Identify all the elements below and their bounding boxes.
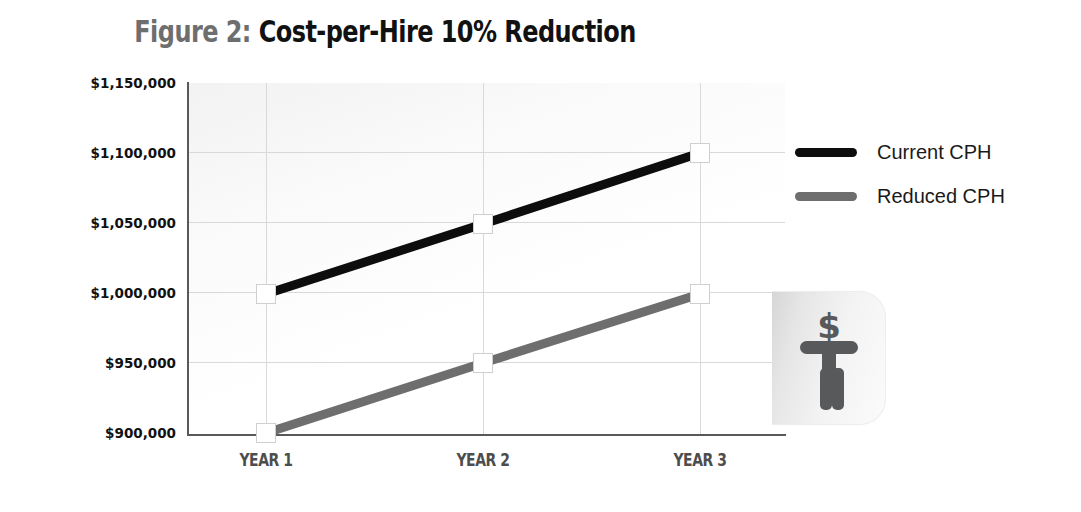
y-tick-label: $1,150,000: [91, 75, 176, 91]
legend-item-current-cph[interactable]: Current CPH: [795, 130, 1065, 174]
y-tick-label: $1,000,000: [91, 285, 176, 301]
title-main-text: Cost-per-Hire 10% Reduction: [259, 14, 636, 49]
line-swatch-gray-icon: [795, 192, 857, 201]
dollar-person-icon-panel: $: [772, 291, 886, 425]
dollar-person-icon: $: [798, 308, 860, 410]
chart-screenshot: Figure 2: Cost-per-Hire 10% Reduction $1…: [0, 0, 1081, 512]
y-tick-label: $900,000: [105, 425, 176, 441]
legend-item-reduced-cph[interactable]: Reduced CPH: [795, 174, 1065, 218]
y-tick-label: $1,100,000: [91, 145, 176, 161]
x-tick-label-year-2: YEAR 2: [456, 450, 509, 470]
x-tick-label-year-3: YEAR 3: [673, 450, 726, 470]
line-swatch-black-icon: [795, 148, 857, 157]
data-point-marker[interactable]: [690, 284, 710, 304]
data-point-marker[interactable]: [256, 423, 276, 443]
data-point-marker[interactable]: [473, 353, 493, 373]
y-axis-line: [187, 82, 189, 436]
x-tick-label-year-1: YEAR 1: [239, 450, 292, 470]
data-point-marker[interactable]: [690, 143, 710, 163]
data-point-marker[interactable]: [256, 284, 276, 304]
gridline-vertical: [483, 83, 484, 435]
legend: Current CPH Reduced CPH: [795, 130, 1065, 218]
gridline-vertical: [266, 83, 267, 435]
y-tick-label: $950,000: [105, 355, 176, 371]
gridline-vertical: [700, 83, 701, 435]
svg-text:$: $: [817, 308, 841, 346]
x-axis-line: [188, 434, 786, 436]
y-tick-label: $1,050,000: [91, 215, 176, 231]
data-point-marker[interactable]: [473, 214, 493, 234]
y-axis-labels: $1,150,000 $1,100,000 $1,050,000 $1,000,…: [0, 0, 176, 512]
plot-area: [188, 83, 785, 435]
legend-item-label: Reduced CPH: [877, 185, 1005, 208]
legend-item-label: Current CPH: [877, 141, 991, 164]
